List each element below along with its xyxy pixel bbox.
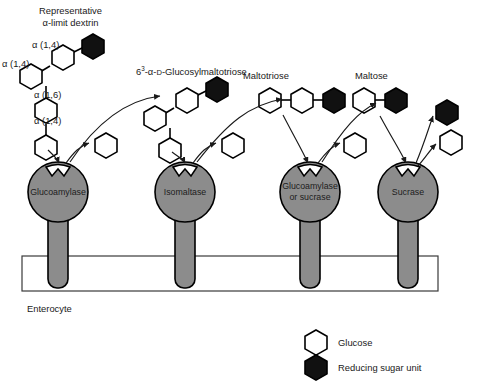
substrate-label-maltotriose: Maltotriose <box>243 70 289 82</box>
bond-label-a14-upper-left: α (1,4) <box>2 58 29 70</box>
enzyme-3-line2: or sucrase <box>260 192 360 203</box>
alpha-limit-dextrin-line2: α-limit dextrin <box>18 17 123 29</box>
enzyme-glucoamylase-line1: Glucoamylase <box>8 187 108 198</box>
legend-label-glucose: Glucose <box>338 337 372 349</box>
enzyme-sucrase-line1: Sucrase <box>358 187 458 198</box>
enzyme-label-isomaltase: Isomaltase <box>135 187 235 198</box>
enterocyte-membrane <box>22 256 438 291</box>
gmt-tail: -Glucosylmaltotriose <box>162 66 247 77</box>
bond-label-a16: α (1,6) <box>34 89 61 101</box>
molecule-glucosylmaltotriose <box>144 77 228 163</box>
substrate-label-maltose: Maltose <box>355 70 388 82</box>
enzyme-3-line1: Glucoamylase <box>260 181 360 192</box>
enzyme-isomaltase-line1: Isomaltase <box>135 187 235 198</box>
molecule-maltotriose <box>259 88 345 113</box>
enzyme-label-glucoamylase-or-sucrase: Glucoamylase or sucrase <box>260 181 360 202</box>
substrate-label-alpha-limit-dextrin: Representative α-limit dextrin <box>18 5 123 28</box>
enzyme-label-glucoamylase: Glucoamylase <box>8 187 108 198</box>
legend-label-reducing-sugar: Reducing sugar unit <box>338 362 421 374</box>
gmt-rest: -α- <box>145 66 157 77</box>
molecule-maltose <box>353 88 407 113</box>
substrate-label-glucosylmaltotriose: 63-α-D-Glucosylmaltotriose <box>136 63 247 79</box>
legend-swatches <box>305 330 327 380</box>
bond-label-a14-top: α (1,4) <box>32 39 59 51</box>
bond-label-a14-lower: α (1,4) <box>34 115 61 127</box>
molecule-alpha-limit-dextrin <box>20 34 104 160</box>
diagram-canvas: Representative α-limit dextrin α (1,4) α… <box>0 0 481 384</box>
alpha-limit-dextrin-line1: Representative <box>18 5 123 17</box>
enzyme-label-sucrase: Sucrase <box>358 187 458 198</box>
enterocyte-label: Enterocyte <box>27 303 72 315</box>
